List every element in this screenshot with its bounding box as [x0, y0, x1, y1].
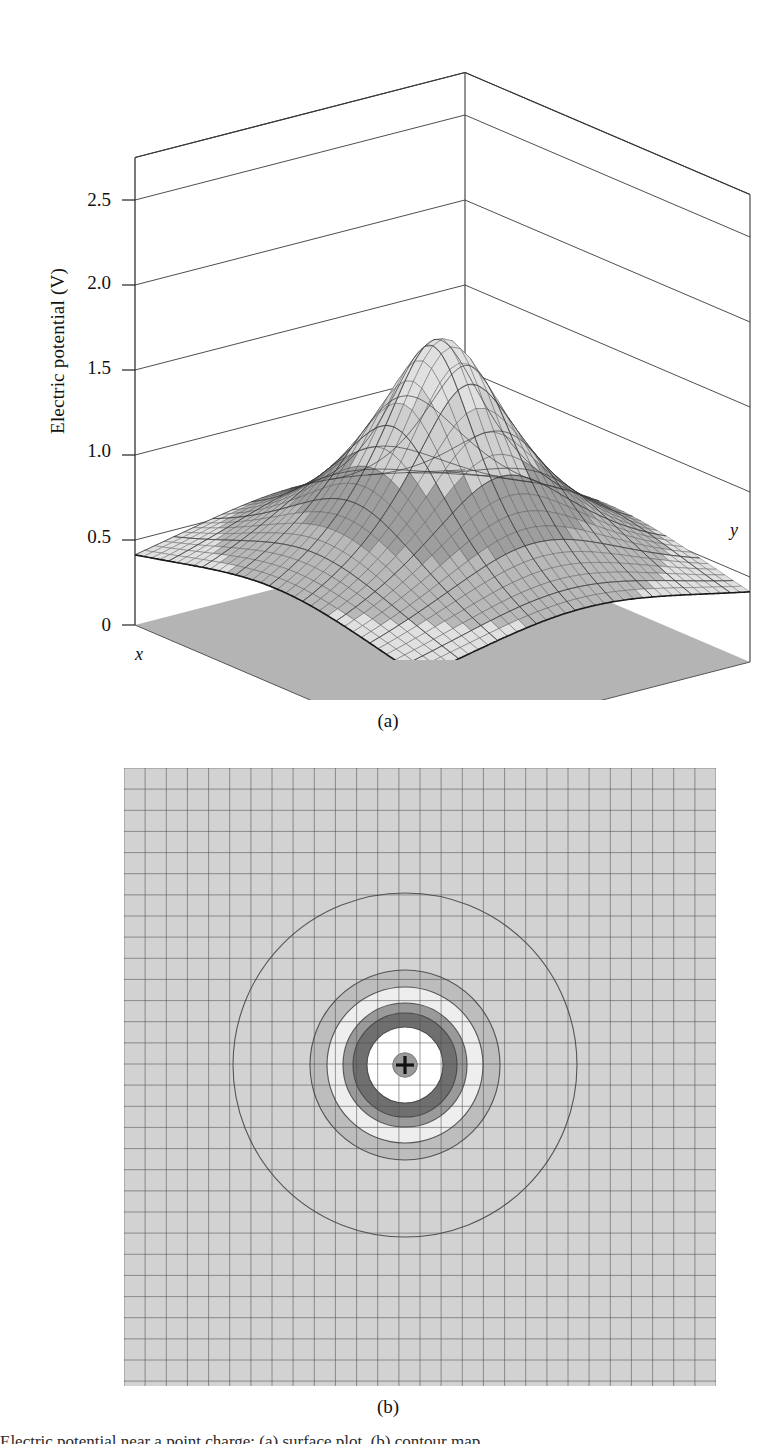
- contour-plot-panel: [0, 740, 776, 1400]
- panel-b-caption: (b): [0, 1396, 776, 1418]
- contour-plot-svg: [124, 768, 716, 1386]
- y-axis-letter: y: [730, 520, 738, 541]
- surface-plot-svg: [0, 0, 776, 700]
- panel-a-caption: (a): [0, 710, 776, 732]
- figure-caption: Electric potential near a point charge: …: [0, 1432, 776, 1444]
- surface-plot-panel: Electric potential (V) 2.5 2.0 1.5 1.0 0…: [0, 0, 776, 700]
- charge-marker: [393, 1053, 417, 1077]
- x-axis-letter: x: [135, 644, 143, 665]
